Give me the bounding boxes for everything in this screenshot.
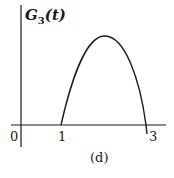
- y-axis-label: G3(t): [25, 8, 66, 26]
- chart: G3(t) 0 1 3 (d): [0, 0, 174, 178]
- tick-label-1: 1: [58, 130, 66, 143]
- tick-label-3: 3: [149, 130, 157, 143]
- figure-caption: (d): [90, 151, 108, 164]
- plot-area: [0, 0, 174, 178]
- tick-label-0: 0: [10, 130, 18, 143]
- g3-curve: [61, 36, 147, 134]
